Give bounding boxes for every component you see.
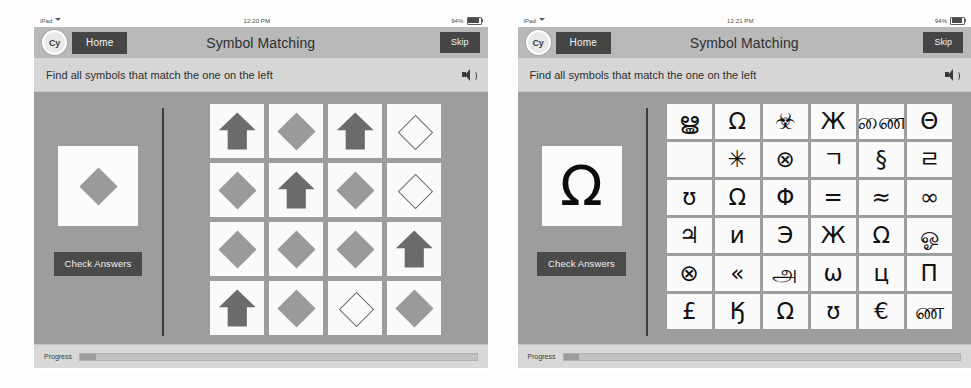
answer-cell[interactable] bbox=[210, 222, 264, 276]
check-answers-button[interactable]: Check Answers bbox=[54, 252, 143, 276]
diamond-filled-icon bbox=[394, 288, 434, 328]
answer-cell[interactable]: ㄱ bbox=[811, 142, 856, 177]
answer-cell[interactable] bbox=[328, 104, 382, 158]
answer-cell[interactable]: = bbox=[811, 180, 856, 215]
app-logo-icon[interactable]: Cy bbox=[42, 30, 67, 55]
nav-bar: Cy Home Symbol Matching Skip bbox=[34, 27, 488, 58]
answer-cell[interactable]: £ bbox=[667, 294, 712, 329]
answer-cell[interactable]: ㄹ bbox=[907, 142, 952, 177]
status-bar: iPad 12:20 PM 94% bbox=[34, 14, 488, 27]
app-logo-icon[interactable]: Cy bbox=[526, 30, 551, 55]
answer-cell[interactable] bbox=[210, 104, 264, 158]
arrow-filled-icon bbox=[276, 170, 316, 210]
answer-cell[interactable] bbox=[328, 222, 382, 276]
answer-cell[interactable]: ☣ bbox=[763, 104, 808, 139]
answer-cell[interactable]: Ω bbox=[715, 180, 760, 215]
answer-cell[interactable] bbox=[387, 104, 441, 158]
answer-cell[interactable] bbox=[210, 281, 264, 335]
answer-cell[interactable] bbox=[269, 104, 323, 158]
answer-cell[interactable]: ♃ bbox=[667, 218, 712, 253]
answer-cell[interactable]: ѡ bbox=[811, 256, 856, 291]
diamond-filled-icon bbox=[217, 170, 257, 210]
answer-cell[interactable] bbox=[269, 281, 323, 335]
answer-cell[interactable]: € bbox=[859, 294, 904, 329]
answer-cell[interactable]: § bbox=[859, 142, 904, 177]
status-bar-right: 94% bbox=[451, 17, 481, 25]
answer-cell[interactable]: ʊ bbox=[667, 180, 712, 215]
target-symbol-tile: Ω bbox=[542, 146, 622, 226]
answer-cell[interactable] bbox=[387, 163, 441, 217]
instruction-text: Find all symbols that match the one on t… bbox=[530, 69, 757, 81]
diamond-filled-icon bbox=[276, 111, 316, 151]
answer-cell[interactable]: Φ bbox=[763, 180, 808, 215]
progress-bar: Progress bbox=[518, 344, 971, 368]
instruction-bar: Find all symbols that match the one on t… bbox=[518, 58, 971, 92]
home-button[interactable]: Home bbox=[556, 32, 611, 54]
speaker-icon[interactable] bbox=[944, 69, 959, 81]
answer-cell[interactable] bbox=[269, 163, 323, 217]
answer-cell[interactable]: « bbox=[715, 256, 760, 291]
answer-cell[interactable]: Ω bbox=[859, 218, 904, 253]
answer-cell[interactable]: அ bbox=[763, 256, 808, 291]
answer-cell[interactable]: ✳ bbox=[715, 142, 760, 177]
target-symbol-tile bbox=[58, 146, 138, 226]
answer-cell[interactable]: ц bbox=[859, 256, 904, 291]
battery-icon bbox=[950, 17, 965, 25]
answer-cell[interactable]: ணை bbox=[859, 104, 904, 139]
diamond-filled-icon bbox=[276, 288, 316, 328]
diamond-outline-icon bbox=[394, 170, 434, 210]
answer-cell[interactable]: Θ bbox=[907, 104, 952, 139]
ipad-screenshot-right: iPad 12:21 PM 94% Cy Home Symbol Matchin… bbox=[518, 14, 971, 372]
answer-cell[interactable]: ∞ bbox=[907, 180, 952, 215]
answer-cell[interactable] bbox=[210, 163, 264, 217]
nav-bar: Cy Home Symbol Matching Skip bbox=[518, 27, 971, 58]
arrow-filled-icon bbox=[335, 111, 375, 151]
skip-button[interactable]: Skip bbox=[923, 32, 963, 53]
progress-bar: Progress bbox=[34, 344, 488, 368]
arrow-filled-icon bbox=[217, 111, 257, 151]
answer-cell[interactable]: Э bbox=[763, 218, 808, 253]
answer-cell[interactable]: Ω bbox=[763, 294, 808, 329]
battery-icon bbox=[467, 17, 482, 25]
answer-grid bbox=[210, 104, 441, 335]
status-bar-right: 94% bbox=[935, 17, 965, 25]
answer-cell[interactable]: ≈ bbox=[859, 180, 904, 215]
answer-cell[interactable] bbox=[269, 222, 323, 276]
device-label: iPad bbox=[40, 18, 52, 24]
answer-cell[interactable] bbox=[387, 222, 441, 276]
diamond-outline-icon bbox=[394, 111, 434, 151]
progress-label: Progress bbox=[44, 353, 72, 360]
target-column: Ω Check Answers bbox=[518, 102, 646, 344]
home-button[interactable]: Home bbox=[72, 32, 127, 54]
answer-cell[interactable]: ஓ bbox=[907, 218, 952, 253]
answer-cell[interactable] bbox=[328, 163, 382, 217]
answer-cell[interactable]: Ж bbox=[811, 218, 856, 253]
answer-cell[interactable]: ⊗ bbox=[667, 256, 712, 291]
screenshot-stage: iPad 12:20 PM 94% Cy Home Symbol Matchin… bbox=[0, 0, 971, 388]
answer-cell[interactable]: ⊗ bbox=[763, 142, 808, 177]
answer-cell[interactable]: ʊ bbox=[811, 294, 856, 329]
speaker-icon[interactable] bbox=[461, 69, 476, 81]
diamond-filled-icon bbox=[63, 151, 133, 221]
answer-cell[interactable] bbox=[328, 281, 382, 335]
answer-cell[interactable]: П bbox=[907, 256, 952, 291]
progress-track bbox=[79, 353, 477, 361]
status-bar-left: iPad bbox=[40, 17, 62, 24]
arrow-filled-icon bbox=[394, 229, 434, 269]
target-column: Check Answers bbox=[34, 102, 162, 344]
answer-cell[interactable] bbox=[387, 281, 441, 335]
answer-cell[interactable]: Ж bbox=[811, 104, 856, 139]
arrow-filled-icon bbox=[217, 288, 257, 328]
answer-cell[interactable]: Ӄ bbox=[715, 294, 760, 329]
answer-cell[interactable]: ண bbox=[907, 294, 952, 329]
check-answers-button[interactable]: Check Answers bbox=[537, 252, 626, 276]
answer-cell[interactable]: Ω bbox=[715, 104, 760, 139]
answer-cell[interactable]: и bbox=[715, 218, 760, 253]
answer-cell[interactable]: ৞ bbox=[667, 142, 712, 177]
battery-percent: 94% bbox=[935, 18, 947, 24]
answer-grid-container: ൠΩ☣ЖணைΘ৞✳⊗ㄱ§ㄹʊΩΦ=≈∞♃иЭЖΩஓ⊗«அѡцП£ӃΩʊ€ண bbox=[648, 102, 971, 344]
answer-cell[interactable]: ൠ bbox=[667, 104, 712, 139]
instruction-bar: Find all symbols that match the one on t… bbox=[34, 58, 488, 92]
wifi-icon bbox=[55, 17, 62, 24]
skip-button[interactable]: Skip bbox=[440, 32, 480, 53]
